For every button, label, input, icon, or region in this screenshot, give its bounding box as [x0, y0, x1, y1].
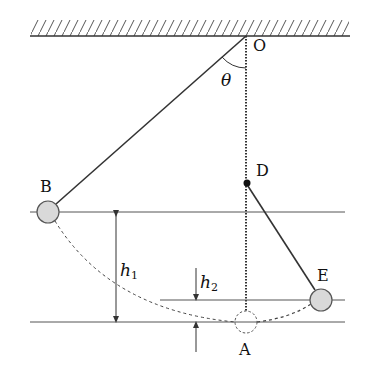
label-a: A — [238, 340, 251, 359]
ball-b — [37, 201, 59, 223]
peg-d — [244, 180, 251, 187]
rope-o-to-b — [56, 36, 246, 204]
rope-d-to-e — [246, 183, 315, 290]
label-theta: θ — [221, 70, 231, 90]
label-o: O — [253, 36, 266, 55]
label-h2: h2 — [200, 272, 218, 294]
label-e: E — [317, 266, 329, 285]
ceiling — [30, 20, 350, 36]
label-h1: h1 — [120, 260, 138, 282]
trajectory-path-right — [257, 304, 311, 322]
label-d: D — [256, 161, 269, 180]
angle-theta-arc — [222, 57, 246, 68]
pendulum-diagram: O θ D B E A h1 h2 — [0, 0, 367, 390]
ball-e — [310, 289, 332, 311]
label-b: B — [40, 177, 52, 196]
ceiling-hatching — [31, 20, 349, 36]
